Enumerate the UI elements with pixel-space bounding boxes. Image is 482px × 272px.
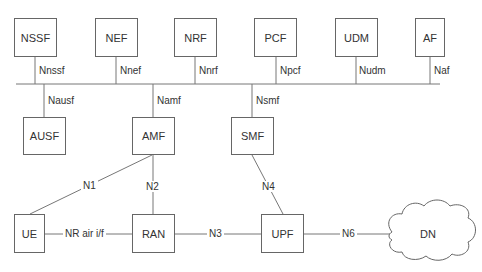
nf-box-smf: SMF [231,117,274,155]
nf-label: AUSF [30,130,59,142]
nf-label: NRF [184,32,207,44]
link-label-n6: N6 [340,228,357,239]
nf-label: PCF [265,32,287,44]
link-label-n3: N3 [207,228,224,239]
nf-label: AF [423,32,437,44]
nf-box-nrf: NRF [174,18,217,57]
interface-label-nsmf: Nsmf [256,95,279,106]
interface-label-nnssf: Nnssf [39,65,65,76]
nf-box-nef: NEF [95,18,138,57]
interface-label-nnrf: Nnrf [199,65,218,76]
nf-box-amf: AMF [132,117,175,155]
interface-label-namf: Namf [157,95,181,106]
nf-box-nssf: NSSF [14,18,57,57]
link-label-nr-air: NR air i/f [63,228,106,239]
node-label-dn: DN [420,228,436,240]
interface-label-nausf: Nausf [48,95,74,106]
interface-label-nnef: Nnef [120,65,141,76]
link-label-n4: N4 [260,181,277,192]
nf-label: SMF [241,130,264,142]
link-label-n1: N1 [81,180,98,191]
nf-label: NSSF [21,32,50,44]
nf-label: NEF [106,32,128,44]
interface-label-nudm: Nudm [359,65,386,76]
interface-label-naf: Naf [434,65,450,76]
nf-box-ausf: AUSF [23,117,66,155]
node-label: UPF [272,228,294,240]
link-label-n2: N2 [144,181,161,192]
nf-box-udm: UDM [335,18,378,57]
interface-label-npcf: Npcf [280,65,301,76]
nf-label: UDM [344,32,369,44]
node-box-upf: UPF [261,214,304,253]
node-label: UE [22,228,37,240]
nf-box-pcf: PCF [254,18,297,57]
node-label: RAN [142,228,165,240]
node-box-ue: UE [14,214,45,253]
nf-box-af: AF [415,18,445,57]
node-box-ran: RAN [132,214,175,253]
nf-label: AMF [142,130,165,142]
